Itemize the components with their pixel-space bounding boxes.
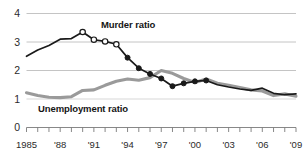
y-axis-tick-label: 2 (4, 65, 20, 75)
y-axis-tick-label: 3 (4, 37, 20, 47)
x-axis-tick-label: '88 (43, 140, 77, 150)
x-axis-tick-label: '94 (111, 140, 145, 150)
x-axis-tick-label: 1985 (10, 140, 44, 150)
x-axis-tick-label: '06 (245, 140, 279, 150)
y-axis-tick-label: 4 (4, 8, 20, 18)
data-series (27, 29, 297, 97)
x-axis-ticks (27, 128, 297, 133)
x-axis-tick-label: '09 (279, 140, 308, 150)
series-label-unemployment-ratio: Unemployment ratio (38, 103, 128, 114)
series-label-murder-ratio: Murder ratio (101, 19, 155, 30)
chart-container: 01234 1985'88'91'94'97'00'03'06'09 Murde… (0, 0, 308, 157)
x-axis-tick-label: '91 (77, 140, 111, 150)
y-axis-tick-label: 1 (4, 94, 20, 104)
x-axis-tick-label: '97 (144, 140, 178, 150)
x-axis-tick-label: '00 (178, 140, 212, 150)
gridlines (27, 14, 297, 100)
y-axis-tick-label: 0 (4, 122, 20, 132)
x-axis-tick-label: '03 (212, 140, 246, 150)
